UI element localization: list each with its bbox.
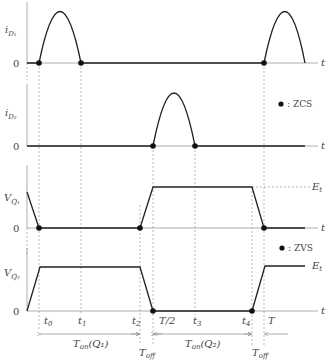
current-waveform xyxy=(27,12,305,64)
voltage-waveform xyxy=(27,266,305,311)
tick-T-half: T/2 xyxy=(159,315,175,326)
y-label: VQ₂ xyxy=(4,267,20,281)
t-label: t xyxy=(321,305,326,316)
zvs-marker xyxy=(36,225,42,231)
plot-VQ1: VQ₁ 0 Et t : ZVS xyxy=(4,165,326,253)
current-waveform xyxy=(27,93,305,146)
legend-dot xyxy=(279,245,284,250)
tick-t0: t0 xyxy=(44,315,53,328)
t-label: t xyxy=(321,222,326,233)
guide-lines xyxy=(27,63,264,345)
svg-text:: ZVS: : ZVS xyxy=(288,243,313,253)
zcs-marker xyxy=(261,60,267,66)
zero-label: 0 xyxy=(13,223,19,234)
tick-t3: t3 xyxy=(193,315,202,328)
zcs-marker xyxy=(36,60,42,66)
time-tick-labels: t0 t1 t2 T/2 t3 t4 T xyxy=(44,315,276,328)
zvs-marker xyxy=(249,308,255,314)
y-label: iD₁ xyxy=(5,24,17,38)
legend-zvs: : ZVS xyxy=(279,243,312,253)
et-label: Et xyxy=(311,260,322,273)
zvs-marker xyxy=(150,308,156,314)
y-label: iD₂ xyxy=(5,107,17,121)
y-label: VQ₁ xyxy=(4,192,20,206)
plot-iD1: iD₁ 0 t xyxy=(5,2,326,69)
tick-t1: t1 xyxy=(78,315,87,328)
zvs-marker xyxy=(137,225,143,231)
tick-T: T xyxy=(268,315,276,326)
zero-label: 0 xyxy=(13,306,19,317)
ton-q1-label: Ton(Q₁) xyxy=(73,338,109,351)
tick-t4: t4 xyxy=(242,315,251,328)
interval-annotations: Ton(Q₁) Toff Ton(Q₂) Toff xyxy=(40,334,288,360)
zero-label: 0 xyxy=(13,141,19,152)
zcs-marker xyxy=(78,60,84,66)
plot-iD2: iD₂ 0 t : ZCS xyxy=(5,84,326,152)
legend-dot xyxy=(278,101,283,106)
toff-label-1: Toff xyxy=(139,347,156,360)
svg-text:: ZCS: : ZCS xyxy=(287,99,312,109)
zero-label: 0 xyxy=(13,58,19,69)
zcs-marker xyxy=(192,143,198,149)
zcs-marker xyxy=(150,143,156,149)
tick-t2: t2 xyxy=(132,315,141,328)
t-label: t xyxy=(321,140,326,151)
switching-waveform-diagram: iD₁ 0 t iD₂ 0 t : ZCS VQ₁ 0 Et t : ZVS xyxy=(0,0,333,362)
toff-label-2: Toff xyxy=(252,347,269,360)
plot-VQ2: VQ₂ 0 Et t xyxy=(4,248,326,317)
et-label: Et xyxy=(311,181,322,194)
voltage-waveform xyxy=(27,187,305,228)
ton-q2-label: Ton(Q₂) xyxy=(185,338,221,351)
legend-zcs: : ZCS xyxy=(278,99,312,109)
t-label: t xyxy=(321,57,326,68)
zvs-marker xyxy=(261,225,267,231)
